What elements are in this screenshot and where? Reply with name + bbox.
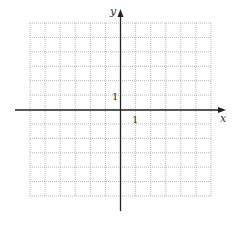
x-axis-label: x [220, 112, 227, 125]
x-tick-label: 1 [132, 114, 138, 125]
y-tick-label: 1 [112, 91, 118, 102]
y-axis-arrow-icon [118, 9, 124, 17]
y-axis-label: y [109, 5, 117, 18]
coordinate-plane: y x 1 1 [0, 0, 238, 227]
